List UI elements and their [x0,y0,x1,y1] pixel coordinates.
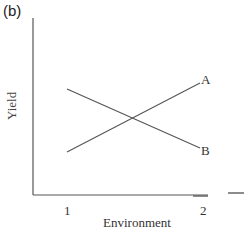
chart-plot [0,0,247,231]
y-axis-label: Yield [4,92,20,120]
x-axis-label: Environment [103,215,171,231]
series-line-b [67,89,200,148]
x-tick-2: 2 [200,203,207,219]
series-label-b: B [201,143,210,159]
series-line-a [67,83,200,152]
x-tick-1: 1 [64,203,71,219]
series-label-a: A [201,72,210,88]
